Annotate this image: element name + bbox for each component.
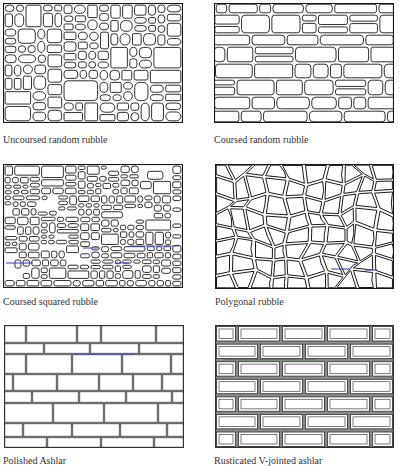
caption-polygonal-rubble: Polygonal rubble	[215, 296, 284, 308]
caption-rusticated-v-jointed-ashlar: Rusticated V-jointed ashlar	[214, 455, 322, 466]
coursed-squared-rubble-drawing	[3, 164, 183, 288]
caption-coursed-random-rubble: Coursed random rubble	[214, 134, 308, 146]
caption-polished-ashlar: Polished Ashlar	[3, 455, 66, 466]
rusticated-v-jointed-ashlar-drawing	[215, 325, 394, 448]
caption-uncoursed-random-rubble: Uncoursed random rubble	[3, 134, 107, 146]
uncoursed-random-rubble-drawing	[3, 3, 183, 123]
coursed-random-rubble-drawing	[214, 3, 394, 123]
polygonal-rubble-drawing	[215, 164, 394, 289]
caption-coursed-squared-rubble: Coursed squared rubble	[3, 296, 98, 308]
polished-ashlar-drawing	[4, 325, 184, 448]
